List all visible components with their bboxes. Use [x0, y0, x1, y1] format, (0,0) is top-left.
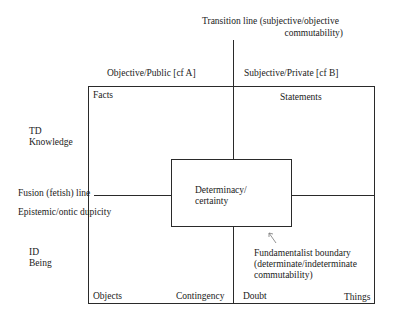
transition-line-label-2: commutability) — [270, 28, 343, 39]
fundamentalist-label-3: commutability) — [254, 270, 313, 281]
center-label-2: certainty — [195, 196, 228, 207]
corner-facts: Facts — [93, 90, 113, 101]
fusion-line-right — [291, 195, 375, 196]
corner-contingency: Contingency — [176, 291, 225, 302]
transition-line-label-1: Transition line (subjective/objective — [202, 16, 339, 27]
corner-doubt: Doubt — [243, 291, 267, 302]
fundamentalist-label-1: Fundamentalist boundary — [254, 248, 351, 259]
row-label-knowledge: Knowledge — [29, 137, 73, 148]
row-label-id: ID — [29, 247, 39, 258]
pointer-arrow-icon — [268, 232, 278, 244]
fundamentalist-label-2: (determinate/indeterminate — [254, 259, 357, 270]
fusion-line-left — [94, 195, 171, 196]
epistemic-label: Epistemic/ontic dupicity — [18, 207, 111, 218]
transition-line-lower — [233, 226, 234, 304]
center-label-1: Determinacy/ — [195, 185, 247, 196]
column-header-subjective: Subjective/Private [cf B] — [244, 68, 338, 79]
fusion-line-label: Fusion (fetish) line — [18, 188, 90, 199]
corner-things: Things — [344, 292, 370, 303]
row-label-being: Being — [29, 258, 52, 269]
row-label-td: TD — [29, 126, 42, 137]
column-header-objective: Objective/Public [cf A] — [107, 68, 196, 79]
corner-objects: Objects — [93, 291, 122, 302]
corner-statements: Statements — [280, 92, 322, 103]
